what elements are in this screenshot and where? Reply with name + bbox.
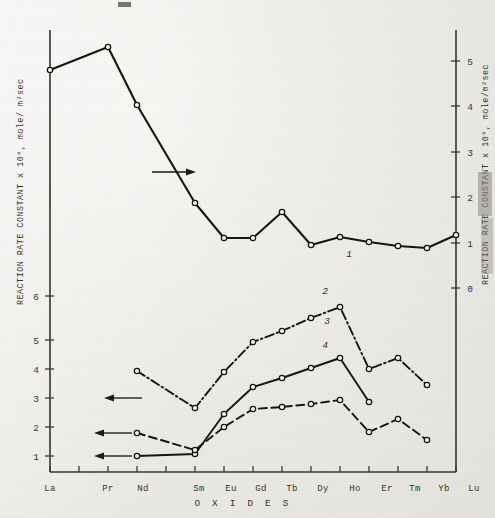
figure-canvas: 1 2 3 4 5 6 0 1 2 3 4 5 <box>0 0 495 518</box>
x-label-dy: Dy <box>317 484 329 494</box>
x-label-sm: Sm <box>193 484 205 494</box>
right-y-tick-labels: 0 1 2 3 4 5 <box>467 57 473 295</box>
x-label-yb: Yb <box>438 484 450 494</box>
series-4-label: 4 <box>322 340 328 351</box>
right-tick-label-0: 0 <box>467 284 473 295</box>
left-y-tick-labels: 1 2 3 4 5 6 <box>33 292 39 463</box>
x-label-la: La <box>44 484 56 494</box>
series-2-line <box>137 307 427 408</box>
scan-corner-mark <box>118 2 131 7</box>
x-label-nd: Nd <box>137 484 149 494</box>
chart-svg: 1 2 3 4 5 6 0 1 2 3 4 5 <box>0 0 495 518</box>
x-axis-title: O X I D E S <box>194 498 291 509</box>
x-label-gd: Gd <box>255 484 267 494</box>
right-tick-label-5: 5 <box>467 57 473 68</box>
scan-smudge-upper <box>478 172 492 216</box>
left-tick-label-2: 2 <box>33 423 39 434</box>
x-label-tb: Tb <box>286 484 298 494</box>
left-tick-label-4: 4 <box>33 365 39 376</box>
series-1-line <box>50 47 456 248</box>
x-label-pr: Pr <box>102 484 114 494</box>
series-3-label: 3 <box>324 316 330 327</box>
series-2-group: 2 <box>134 286 429 411</box>
x-label-tm: Tm <box>409 484 421 494</box>
left-tick-label-1: 1 <box>33 452 39 463</box>
x-label-ho: Ho <box>349 484 361 494</box>
series-3-group: 3 <box>134 316 371 459</box>
series-2-label: 2 <box>322 286 328 297</box>
series-1-group: 1 <box>47 44 458 260</box>
x-axis-labels: La Pr Nd Sm Eu Gd Tb Dy Ho Er Tm Yb Lu <box>44 484 480 494</box>
arrow-curve4-to-left-axis <box>94 429 132 436</box>
x-label-lu: Lu <box>468 484 480 494</box>
series-1-label: 1 <box>346 249 352 260</box>
series-4-group: 4 <box>134 340 429 453</box>
arrow-curve3-to-left-axis <box>94 452 132 459</box>
right-tick-label-4: 4 <box>467 102 473 113</box>
left-tick-label-6: 6 <box>33 292 39 303</box>
left-y-axis-title: REACTION RATE CONSTANT x 10⁹, mole/ m²se… <box>16 78 26 305</box>
x-ticks <box>50 466 456 472</box>
left-tick-label-5: 5 <box>33 336 39 347</box>
series-1-markers <box>47 44 458 250</box>
right-tick-label-2: 2 <box>467 193 473 204</box>
x-label-eu: Eu <box>225 484 237 494</box>
right-tick-label-1: 1 <box>467 239 473 250</box>
arrow-curve2-to-left-axis <box>104 394 142 401</box>
scan-smudge-lower <box>481 218 493 274</box>
series-2-markers <box>134 304 429 410</box>
right-tick-label-3: 3 <box>467 148 473 159</box>
x-label-er: Er <box>381 484 393 494</box>
left-tick-label-3: 3 <box>33 394 39 405</box>
